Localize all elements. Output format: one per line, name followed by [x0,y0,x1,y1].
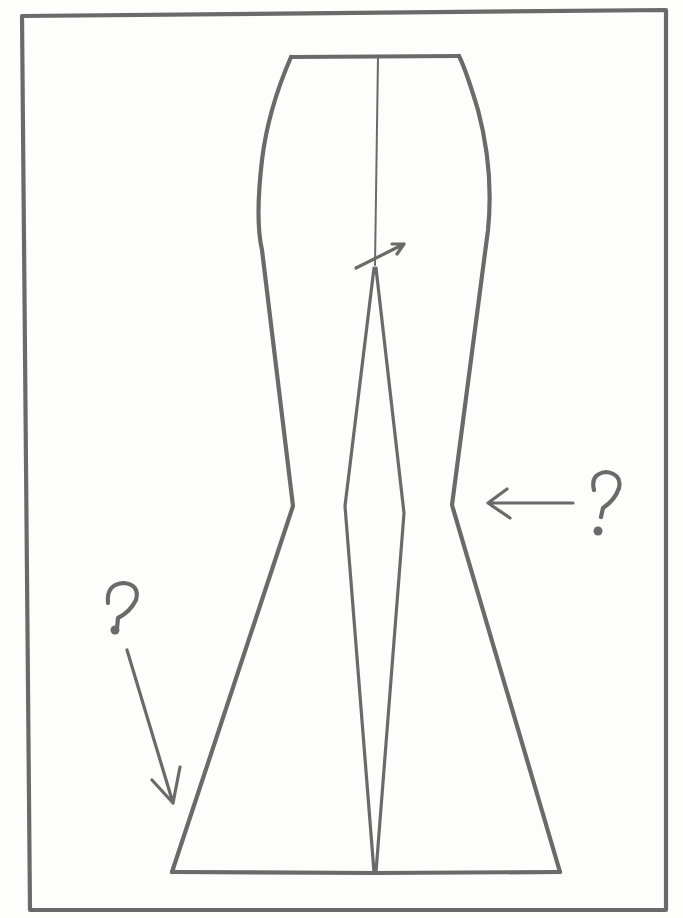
right-side-seam [452,56,560,872]
knee-question-annotation [488,472,619,536]
center-grain-line [375,57,378,265]
question-mark-icon [593,472,619,517]
hem-question-annotation [108,583,180,803]
pattern-sketch [0,0,683,918]
left-arrow-icon [488,489,573,518]
border-frame [22,10,666,910]
hemline [172,872,560,873]
grain-arrow-icon [356,244,404,268]
down-right-arrow-icon [127,650,180,803]
right-inner-leg-line [376,268,404,872]
question-mark-icon [108,583,137,628]
left-side-seam [172,57,293,872]
left-inner-leg-line [345,268,374,872]
waistline [291,56,459,57]
